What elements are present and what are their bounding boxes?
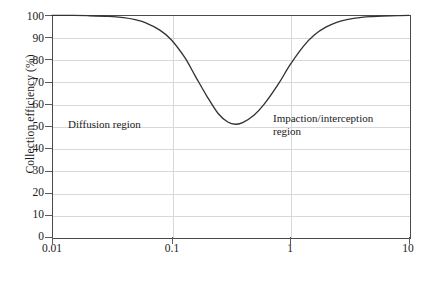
y-tick-mark <box>45 15 52 16</box>
y-tick-label: 90 <box>4 33 44 45</box>
y-tick-mark <box>45 59 52 60</box>
y-tick-mark <box>45 171 52 172</box>
y-tick-label: 20 <box>4 187 44 199</box>
x-tick-label: 1 <box>277 243 303 255</box>
gridline-60 <box>53 105 410 106</box>
y-tick-label: 100 <box>4 11 44 23</box>
annotation-diffusion-region: Diffusion region <box>68 118 141 131</box>
y-tick-label: 80 <box>4 55 44 67</box>
x-tick-label: 0.1 <box>155 243 189 255</box>
x-tick-label: 0.01 <box>32 243 72 255</box>
gridline-70 <box>53 82 410 83</box>
y-tick-mark <box>45 215 52 216</box>
y-tick-mark <box>45 82 52 83</box>
y-tick-label: 40 <box>4 143 44 155</box>
y-tick-label: 10 <box>4 209 44 221</box>
y-tick-mark <box>45 148 52 149</box>
y-tick-label: 0 <box>4 231 44 243</box>
y-tick-mark <box>45 37 52 38</box>
y-tick-label: 60 <box>4 99 44 111</box>
y-tick-label: 70 <box>4 77 44 89</box>
annotation-line-1: Impaction/interception <box>273 112 373 124</box>
y-tick-label: 50 <box>4 121 44 133</box>
y-tick-mark <box>45 193 52 194</box>
gridline-90 <box>53 38 410 39</box>
y-tick-mark <box>45 237 52 238</box>
gridline-10 <box>53 216 410 217</box>
gridline-30 <box>53 171 410 172</box>
y-tick-mark <box>45 126 52 127</box>
y-tick-label: 30 <box>4 165 44 177</box>
gridline-80 <box>53 60 410 61</box>
gridline-20 <box>53 194 410 195</box>
x-tick-label: 10 <box>395 243 421 255</box>
y-tick-mark <box>45 104 52 105</box>
annotation-impaction-region: Impaction/interceptionregion <box>273 112 373 138</box>
gridline-40 <box>53 149 410 150</box>
annotation-line-2: region <box>273 125 301 137</box>
gridline-x-0.1 <box>173 16 174 238</box>
figure: Collection efficiency (%) 100 90 80 70 6… <box>0 0 426 285</box>
